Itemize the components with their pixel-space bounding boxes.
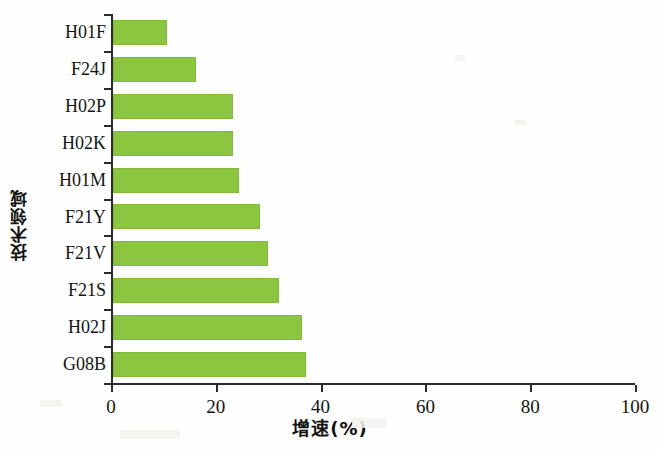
scan-artifact xyxy=(40,400,62,407)
y-axis-tick xyxy=(104,383,111,385)
y-axis-tick xyxy=(104,14,111,16)
bar-f24j[interactable] xyxy=(113,57,196,82)
y-axis-tick xyxy=(104,125,111,127)
bar-row xyxy=(113,125,233,162)
x-axis-tick xyxy=(321,385,323,392)
bar-row xyxy=(113,14,167,51)
y-axis-tick xyxy=(104,272,111,274)
bar-f21v[interactable] xyxy=(113,241,268,266)
category-label-h02j: H02J xyxy=(68,309,106,346)
bar-row xyxy=(113,235,268,272)
bar-f21y[interactable] xyxy=(113,204,260,229)
y-axis-tick xyxy=(104,235,111,237)
bar-g08b[interactable] xyxy=(113,352,306,377)
bar-h02p[interactable] xyxy=(113,94,233,119)
bar-row xyxy=(113,88,233,125)
bar-row xyxy=(113,272,279,309)
bar-row xyxy=(113,51,196,88)
bar-h02k[interactable] xyxy=(113,131,233,156)
category-label-h02k: H02K xyxy=(62,125,106,162)
y-axis-tick xyxy=(104,199,111,201)
category-label-g08b: G08B xyxy=(63,346,106,383)
bar-h02j[interactable] xyxy=(113,315,302,340)
category-label-f24j: F24J xyxy=(71,51,106,88)
y-axis-tick xyxy=(104,162,111,164)
y-axis-tick xyxy=(104,346,111,348)
category-label-f21v: F21V xyxy=(65,235,106,272)
x-axis-line xyxy=(111,383,635,385)
category-label-h02p: H02P xyxy=(65,88,106,125)
x-axis-tick xyxy=(216,385,218,392)
category-label-f21y: F21Y xyxy=(65,199,106,236)
category-label-h01m: H01M xyxy=(59,162,106,199)
plot-area: 020406080100 xyxy=(111,14,635,383)
y-axis-tick xyxy=(104,309,111,311)
bar-chart-figure: 技术领域 H01FF24JH02PH02KH01MF21YF21VF21SH02… xyxy=(0,0,660,450)
bar-h01m[interactable] xyxy=(113,168,239,193)
x-axis-tick xyxy=(530,385,532,392)
category-label-f21s: F21S xyxy=(68,272,106,309)
bar-row xyxy=(113,346,306,383)
x-axis-tick xyxy=(635,385,637,392)
bar-row xyxy=(113,309,302,346)
x-axis-tick xyxy=(425,385,427,392)
y-axis-tick xyxy=(104,88,111,90)
x-axis-title: 增速(%) xyxy=(0,414,660,440)
bar-h01f[interactable] xyxy=(113,20,167,45)
category-labels: H01FF24JH02PH02KH01MF21YF21VF21SH02JG08B xyxy=(30,14,106,383)
bar-row xyxy=(113,162,239,199)
bar-f21s[interactable] xyxy=(113,278,279,303)
bar-row xyxy=(113,199,260,236)
y-axis-tick xyxy=(104,51,111,53)
category-label-h01f: H01F xyxy=(65,14,106,51)
y-axis-title: 技术领域 xyxy=(6,150,32,300)
x-axis-tick xyxy=(111,385,113,392)
